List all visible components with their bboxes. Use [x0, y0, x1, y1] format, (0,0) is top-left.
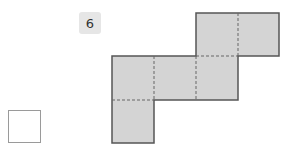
cube-net-diagram	[0, 0, 287, 165]
answer-box[interactable]	[8, 110, 41, 143]
